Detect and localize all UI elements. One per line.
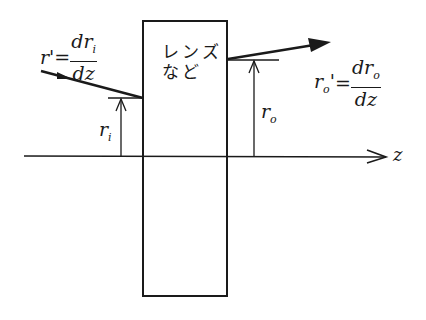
output-slope-lhs: ro' xyxy=(314,70,335,92)
output-slope-formula: ro'=drodz xyxy=(314,56,381,110)
output-slope-den: dz xyxy=(355,88,377,110)
axis-label-z: z xyxy=(393,144,402,165)
output-slope-fraction: drodz xyxy=(351,56,381,110)
input-height-label: ri xyxy=(99,118,112,144)
input-slope-fraction: dridz xyxy=(70,30,97,84)
input-slope-formula: r'=dridz xyxy=(40,30,97,84)
outgoing-ray xyxy=(228,44,320,59)
lens-label-line1: レンズ xyxy=(162,42,222,62)
input-slope-eq: = xyxy=(54,46,70,68)
lens-label: レンズ など xyxy=(162,42,222,82)
lens-label-line2: など xyxy=(162,62,222,82)
outgoing-ray-arrow-icon xyxy=(308,38,331,52)
input-slope-den: dz xyxy=(73,62,95,84)
output-height-label: ro xyxy=(261,100,277,126)
input-slope-lhs: r' xyxy=(40,46,54,68)
output-slope-eq: = xyxy=(335,72,351,94)
optical-axis xyxy=(24,156,386,157)
